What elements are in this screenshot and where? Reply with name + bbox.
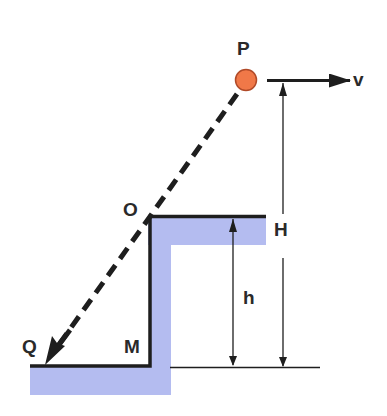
label-P: P bbox=[237, 38, 250, 59]
label-O: O bbox=[123, 199, 138, 220]
ball-P bbox=[236, 70, 257, 91]
cliff-fill bbox=[30, 217, 266, 395]
label-v: v bbox=[353, 69, 364, 90]
label-Q: Q bbox=[22, 336, 37, 357]
projectile-diagram: P v O H h Q M bbox=[0, 0, 387, 416]
trajectory-arrow-shaft bbox=[58, 330, 70, 346]
label-H: H bbox=[274, 219, 288, 240]
label-h: h bbox=[243, 287, 255, 308]
label-M: M bbox=[124, 336, 140, 357]
